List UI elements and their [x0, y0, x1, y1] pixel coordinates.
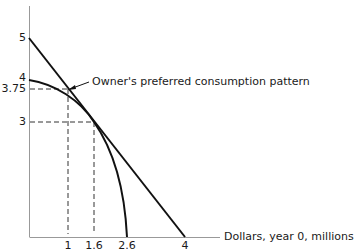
market-line — [29, 38, 185, 237]
x-tick-1: 1 — [56, 240, 80, 251]
x-tick-4: 4 — [173, 240, 197, 251]
x-tick-1-6: 1.6 — [82, 240, 106, 251]
x-tick-2-6: 2.6 — [115, 240, 139, 251]
x-axis-label: Dollars, year 0, millions — [224, 231, 354, 243]
arrowhead-icon — [68, 85, 76, 90]
annotation-label: Owner's preferred consumption pattern — [92, 76, 310, 88]
y-tick-3-75: 3.75 — [0, 83, 26, 95]
production-curve — [29, 80, 127, 237]
y-tick-3: 3 — [0, 116, 26, 128]
y-tick-5: 5 — [0, 32, 26, 44]
